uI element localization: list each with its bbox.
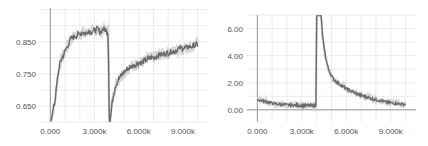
x-tick-label: 3.000k [83,127,108,136]
accuracy-chart: 0.0003.000k6.000k9.000k0.6500.7500.850 [0,0,214,146]
y-tick-label: 0.00 [227,106,243,115]
x-tick-label: 3.000k [290,127,315,136]
x-tick-label: 6.000k [334,127,359,136]
x-tick-label: 9.000k [171,127,196,136]
loss-chart: 0.0003.000k6.000k9.000k0.002.004.006.00 [214,0,428,146]
y-tick-label: 0.650 [16,102,37,111]
y-tick-label: 0.750 [16,70,37,79]
y-tick-label: 2.00 [227,79,243,88]
y-tick-label: 6.00 [227,25,243,34]
y-tick-label: 4.00 [227,52,243,61]
x-tick-label: 0.000 [247,127,268,136]
x-tick-label: 9.000k [379,127,404,136]
x-tick-label: 0.000 [40,127,61,136]
y-tick-label: 0.850 [16,38,37,47]
x-tick-label: 6.000k [127,127,152,136]
